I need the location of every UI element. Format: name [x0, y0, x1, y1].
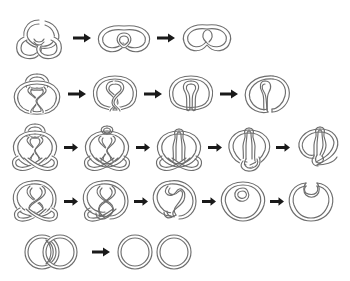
knot-stage-r3s5: [290, 119, 344, 175]
knot-stage-r5s2: [114, 231, 198, 273]
knot-stage-r3s3: [150, 119, 208, 175]
knot-row-5: [16, 231, 198, 273]
knot-stage-r3s1: [6, 119, 64, 175]
knot-stage-r5s1: [16, 231, 88, 273]
knot-stage-r2s1: [8, 68, 66, 120]
knot-stage-r4s5: [284, 175, 338, 227]
knot-stage-r4s2: [78, 175, 134, 227]
arrow-r4-4: [270, 196, 284, 207]
knot-row-4: [8, 175, 338, 227]
arrow-r4-1: [64, 196, 78, 207]
arrow-r1-2: [154, 32, 178, 44]
knot-stage-r3s2: [78, 119, 136, 175]
knot-stage-r2s4: [240, 70, 294, 118]
arrow-r3-3: [208, 142, 222, 153]
knot-stage-r3s4: [222, 119, 276, 175]
knot-stage-r4s3: [148, 175, 202, 227]
knot-stage-r1s1: [8, 14, 70, 62]
knot-row-3: [6, 119, 344, 175]
knot-stage-r2s2: [88, 70, 142, 118]
arrow-r2-2: [142, 88, 164, 100]
knot-stage-r1s2: [94, 18, 154, 58]
knot-row-2: [8, 68, 294, 120]
arrow-r4-3: [202, 196, 216, 207]
knot-row-1: [8, 14, 236, 62]
arrow-r1-1: [70, 32, 94, 44]
arrow-r5-1: [88, 246, 114, 258]
knot-stage-r4s1: [8, 175, 64, 227]
knot-stage-r2s3: [164, 70, 218, 118]
arrow-r3-2: [136, 142, 150, 153]
arrow-r3-1: [64, 142, 78, 153]
knot-stage-r4s4: [216, 175, 270, 227]
arrow-r3-4: [276, 142, 290, 153]
knot-stage-r1s3: [178, 18, 236, 58]
arrow-r2-1: [66, 88, 88, 100]
arrow-r4-2: [134, 196, 148, 207]
knot-simplification-figure: Knot diagram simplification sequence Fiv…: [0, 0, 350, 281]
arrow-r2-3: [218, 88, 240, 100]
